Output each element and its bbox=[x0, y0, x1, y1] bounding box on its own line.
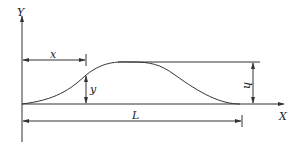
l-dimension-label: L bbox=[131, 109, 139, 122]
x-dimension-label: x bbox=[50, 48, 57, 61]
bump-curve bbox=[22, 62, 240, 104]
x-dimension: x bbox=[23, 48, 86, 66]
x-axis: X bbox=[22, 104, 288, 123]
h-dimension: h bbox=[241, 63, 254, 103]
y-axis-label: Y bbox=[17, 6, 26, 19]
y-axis: Y bbox=[17, 6, 26, 142]
h-dimension-label: h bbox=[241, 82, 254, 89]
l-dimension: L bbox=[23, 109, 242, 127]
y-dimension: y bbox=[86, 76, 97, 103]
diagram-canvas: Y X x y h L bbox=[0, 0, 305, 151]
x-axis-label: X bbox=[278, 110, 288, 123]
y-dimension-label: y bbox=[89, 83, 97, 96]
